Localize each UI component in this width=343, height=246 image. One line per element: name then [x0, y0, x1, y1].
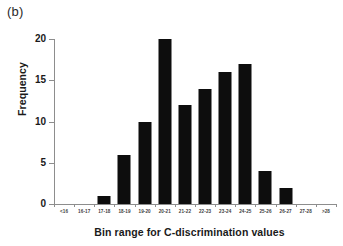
- panel-label: (b): [7, 4, 24, 19]
- x-axis-tick-label: 18-19: [118, 209, 130, 214]
- x-axis-tick: [316, 204, 317, 207]
- x-axis-tick: [155, 204, 156, 207]
- y-axis-tick-label: 10: [35, 115, 46, 128]
- bar: [259, 171, 272, 204]
- x-axis-title: Bin range for C-discrimination values: [0, 226, 343, 238]
- x-axis-tick: [235, 204, 236, 207]
- x-axis-tick-label: 27-28: [300, 209, 312, 214]
- x-axis-tick-labels: <1616-1717-1818-1919-2020-2121-2222-2323…: [54, 209, 336, 221]
- x-axis-tick: [175, 204, 176, 207]
- x-axis-tick-label: <16: [60, 209, 68, 214]
- bar: [239, 64, 252, 204]
- bar-slot: [94, 39, 114, 204]
- y-axis-tick-label: 5: [40, 156, 46, 169]
- bar: [199, 89, 212, 205]
- y-axis-tick-label: 0: [40, 197, 46, 210]
- bar-slot: [114, 39, 134, 204]
- x-axis-tick-label: 17-18: [98, 209, 110, 214]
- x-axis-tick: [114, 204, 115, 207]
- bar-slot: [175, 39, 195, 204]
- x-axis-tick: [215, 204, 216, 207]
- x-axis-tick-label: 20-21: [159, 209, 171, 214]
- x-axis-tick: [255, 204, 256, 207]
- bar-slot: [255, 39, 275, 204]
- x-axis-tick-label: 23-24: [219, 209, 231, 214]
- bar: [98, 196, 111, 204]
- x-axis-tick-label: 21-22: [179, 209, 191, 214]
- y-axis-tick-label: 15: [35, 73, 46, 86]
- y-axis-tick-label: 20: [35, 32, 46, 45]
- bar: [158, 39, 171, 204]
- x-axis-tick-label: 19-20: [139, 209, 151, 214]
- x-axis-tick: [54, 204, 55, 207]
- x-axis-tick: [336, 204, 337, 207]
- bar-slot: [316, 39, 336, 204]
- bar: [219, 72, 232, 204]
- bar-slot: [296, 39, 316, 204]
- bar-slot: [155, 39, 175, 204]
- x-axis-tick-label: 26-27: [280, 209, 292, 214]
- x-axis-tick: [94, 204, 95, 207]
- x-axis-tick: [276, 204, 277, 207]
- bar: [279, 188, 292, 205]
- bar: [138, 122, 151, 205]
- bar-slot: [235, 39, 255, 204]
- x-axis-tick: [296, 204, 297, 207]
- bar: [118, 155, 131, 205]
- bar-slot: [74, 39, 94, 204]
- plot-area: 05101520: [54, 39, 336, 204]
- bar-slot: [54, 39, 74, 204]
- bar-slot: [135, 39, 155, 204]
- bar: [178, 105, 191, 204]
- x-axis-tick: [135, 204, 136, 207]
- x-axis-tick-label: 25-26: [259, 209, 271, 214]
- x-axis-tick-label: >28: [322, 209, 330, 214]
- bar-slot: [215, 39, 235, 204]
- x-axis-tick: [74, 204, 75, 207]
- x-axis-tick-label: 24-25: [239, 209, 251, 214]
- bar-slot: [276, 39, 296, 204]
- x-axis-tick: [195, 204, 196, 207]
- bar-slot: [195, 39, 215, 204]
- x-axis-tick-label: 16-17: [78, 209, 90, 214]
- y-axis-title: Frequency: [16, 29, 28, 149]
- bar-series: [54, 39, 336, 204]
- x-axis-tick-label: 22-23: [199, 209, 211, 214]
